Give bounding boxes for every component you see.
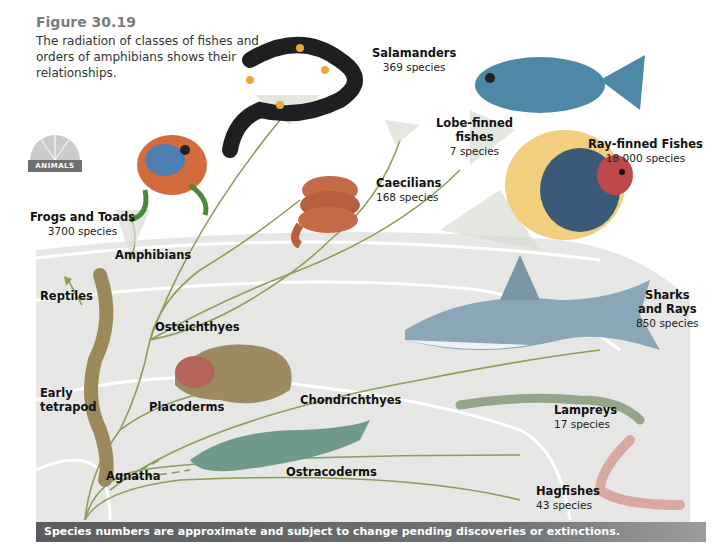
group-name-line2: fishes [436,130,513,144]
clade-early-tetrapod-line2: tetrapod [40,400,97,414]
group-name: Ray-finned Fishes [588,137,703,151]
species-count: 7 species [436,144,513,158]
nautilus-shell-icon [30,135,80,160]
clade-chondrichthyes: Chondrichthyes [300,393,401,407]
species-count: 18 000 species [588,151,703,165]
clade-early-tetrapod-line1: Early [40,386,97,400]
label-caecilians: Caecilians 168 species [376,176,441,204]
frog-illustration [130,135,207,220]
group-name-line2: and Rays [636,302,699,316]
label-ray-finned-fishes: Ray-finned Fishes 18 000 species [588,137,703,165]
clade-ostracoderms: Ostracoderms [286,465,377,479]
group-name: Caecilians [376,176,441,190]
species-count: 369 species [372,60,456,74]
label-hagfishes: Hagfishes 43 species [536,484,600,512]
animals-badge: ANIMALS [28,160,82,172]
group-name: Salamanders [372,46,456,60]
species-count: 3700 species [30,224,135,238]
group-name-line1: Sharks [636,288,699,302]
group-name: Frogs and Toads [30,210,135,224]
label-salamanders: Salamanders 369 species [372,46,456,74]
clade-placoderms: Placoderms [149,400,224,414]
group-name: Hagfishes [536,484,600,498]
group-name-line1: Lobe-finned [436,116,513,130]
coelacanth-illustration [475,55,645,113]
clade-reptiles: Reptiles [40,289,93,303]
label-lobe-finned-fishes: Lobe-finned fishes 7 species [436,116,513,158]
clade-amphibians: Amphibians [115,248,191,262]
species-count: 168 species [376,190,441,204]
clade-osteichthyes: Osteichthyes [155,320,240,334]
species-count: 43 species [536,498,600,512]
clade-agnatha: Agnatha [106,469,161,483]
footer-note: Species numbers are approximate and subj… [36,522,706,542]
label-frogs-toads: Frogs and Toads 3700 species [30,210,135,238]
figure-caption: The radiation of classes of fishes and o… [36,33,286,81]
group-name: Lampreys [554,403,617,417]
label-lampreys: Lampreys 17 species [554,403,617,431]
label-sharks-rays: Sharks and Rays 850 species [636,288,699,330]
figure-title: Figure 30.19 [36,14,136,30]
clade-early-tetrapod: Early tetrapod [40,386,97,414]
species-count: 17 species [554,417,617,431]
species-count: 850 species [636,316,699,330]
